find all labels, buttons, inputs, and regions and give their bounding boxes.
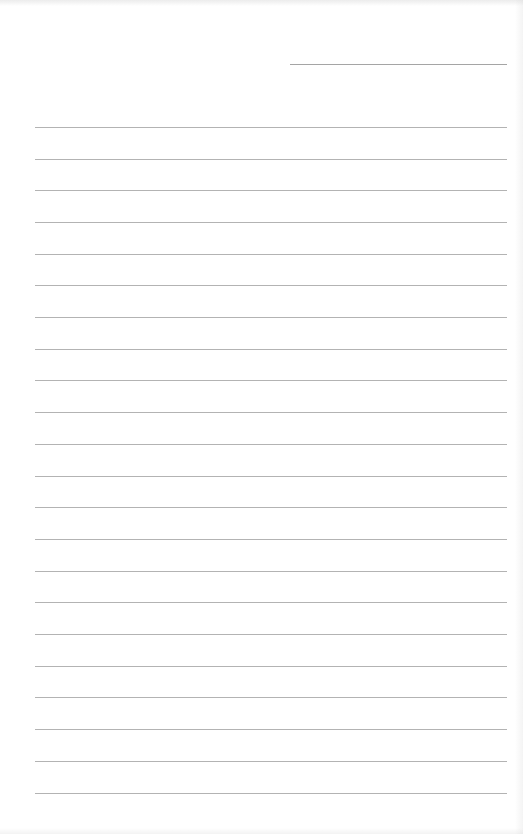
ruled-line bbox=[35, 602, 507, 603]
ruled-line bbox=[35, 666, 507, 667]
ruled-line bbox=[35, 190, 507, 191]
ruled-line bbox=[35, 380, 507, 381]
ruled-line bbox=[35, 349, 507, 350]
ruled-line bbox=[35, 127, 507, 128]
ruled-line bbox=[35, 222, 507, 223]
ruled-line bbox=[35, 761, 507, 762]
ruled-line bbox=[35, 507, 507, 508]
ruled-line bbox=[35, 634, 507, 635]
paper-bottom-edge-shadow bbox=[0, 828, 523, 834]
ruled-line bbox=[35, 317, 507, 318]
header-name-line bbox=[290, 64, 507, 65]
ruled-line bbox=[35, 285, 507, 286]
ruled-line bbox=[35, 793, 507, 794]
ruled-line bbox=[35, 539, 507, 540]
ruled-line bbox=[35, 412, 507, 413]
ruled-line bbox=[35, 159, 507, 160]
paper-right-edge-shadow bbox=[515, 0, 523, 834]
ruled-line bbox=[35, 697, 507, 698]
ruled-line bbox=[35, 254, 507, 255]
ruled-line bbox=[35, 571, 507, 572]
ruled-line bbox=[35, 476, 507, 477]
ruled-line bbox=[35, 729, 507, 730]
paper-top-edge-shadow bbox=[0, 0, 523, 6]
ruled-line bbox=[35, 444, 507, 445]
